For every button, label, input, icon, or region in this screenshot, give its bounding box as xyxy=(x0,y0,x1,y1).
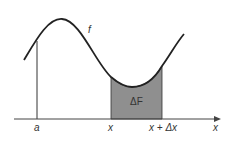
delta-f-area xyxy=(111,66,162,119)
curve-label: f xyxy=(88,24,92,35)
axis-label: x xyxy=(212,122,219,133)
area-label: ΔF xyxy=(130,96,143,107)
tick-label-x-plus-dx: x + Δx xyxy=(148,122,178,133)
tick-label-x: x xyxy=(107,122,114,133)
integral-diagram: f ΔF a x x + Δx x xyxy=(0,0,232,145)
tick-label-a: a xyxy=(34,122,40,133)
